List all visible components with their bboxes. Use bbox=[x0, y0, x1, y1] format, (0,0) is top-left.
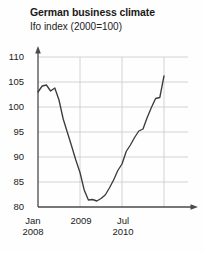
axis-lines bbox=[35, 46, 198, 210]
x-axis-arrow-icon bbox=[191, 204, 199, 210]
y-axis-arrow-icon bbox=[35, 46, 41, 54]
horizontal-gridlines bbox=[38, 57, 188, 182]
chart-figure: German business climate Ifo index (2000=… bbox=[0, 0, 205, 253]
plot-area bbox=[0, 0, 205, 253]
